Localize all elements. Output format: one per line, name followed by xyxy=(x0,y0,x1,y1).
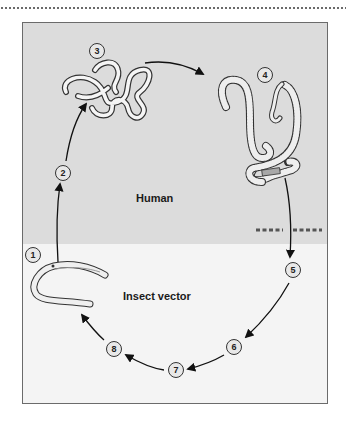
stage-3-marker: 3 xyxy=(89,43,105,59)
stage-1-marker: 1 xyxy=(25,247,41,263)
arrow-6-to-7 xyxy=(188,355,224,369)
stage-5-marker: 5 xyxy=(285,262,301,278)
stage-2-marker: 2 xyxy=(55,165,71,181)
arrow-5-to-6 xyxy=(246,283,289,337)
stage-8-marker: 8 xyxy=(106,341,122,357)
stage-7-marker: 7 xyxy=(168,362,184,378)
arrow-3-to-4 xyxy=(145,62,203,74)
stage-3-tangled-worms-icon xyxy=(65,62,150,117)
life-cycle-artwork xyxy=(0,0,346,424)
arrow-1-to-2 xyxy=(57,184,60,262)
stage-4-marker: 4 xyxy=(257,67,273,83)
arrow-4-to-5 xyxy=(285,178,291,257)
arrow-7-to-8 xyxy=(126,355,164,370)
stage-6-marker: 6 xyxy=(226,339,242,355)
stage-4-adult-worms-icon xyxy=(222,80,297,182)
arrow-2-to-3 xyxy=(66,104,86,161)
stage-1-larva-icon xyxy=(34,264,105,304)
arrow-8-to-1 xyxy=(82,315,104,340)
